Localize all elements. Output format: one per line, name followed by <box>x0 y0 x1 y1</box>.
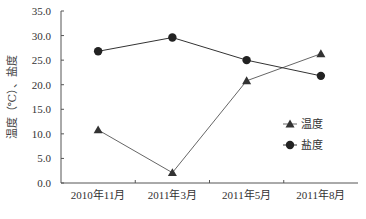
y-tick-label: 15.0 <box>32 103 52 115</box>
y-tick-label: 5.0 <box>37 152 51 164</box>
legend-label: 温度 <box>301 117 323 131</box>
y-tick-label: 25.0 <box>32 54 52 66</box>
x-category-label: 2010年11月 <box>71 188 126 201</box>
legend: 温度盐度 <box>283 117 323 152</box>
circle-marker <box>317 72 325 80</box>
circle-marker <box>168 33 176 41</box>
y-tick-label: 20.0 <box>32 79 52 91</box>
triangle-marker <box>242 76 251 84</box>
circle-marker <box>94 47 102 55</box>
y-tick-label: 30.0 <box>32 30 52 42</box>
series-layer <box>94 33 326 176</box>
legend-triangle-icon <box>286 120 295 128</box>
legend-item: 盐度 <box>283 138 323 152</box>
y-axis: 0.05.010.015.020.025.030.035.0 <box>32 5 64 189</box>
series-temperature <box>94 49 326 176</box>
x-category-label: 2011年8月 <box>296 188 345 201</box>
triangle-marker <box>94 125 103 133</box>
line-chart: 温度（℃）、盐度 0.05.010.015.020.025.030.035.0 … <box>0 0 366 219</box>
x-category-label: 2011年5月 <box>222 188 271 201</box>
legend-item: 温度 <box>283 117 323 131</box>
legend-label: 盐度 <box>301 138 323 152</box>
circle-marker <box>242 56 250 64</box>
y-axis-title-group: 温度（℃）、盐度 <box>5 55 19 139</box>
legend-circle-icon <box>286 141 294 149</box>
series-salinity <box>94 33 325 80</box>
y-tick-label: 35.0 <box>32 5 52 17</box>
y-tick-label: 0.0 <box>37 177 51 189</box>
x-axis: 2010年11月2011年3月2011年5月2011年8月 <box>61 180 358 201</box>
y-tick-label: 10.0 <box>32 128 52 140</box>
x-category-label: 2011年3月 <box>148 188 197 201</box>
series-line <box>98 54 321 173</box>
y-axis-title: 温度（℃）、盐度 <box>5 55 19 139</box>
series-line <box>98 38 321 76</box>
triangle-marker <box>316 49 325 57</box>
